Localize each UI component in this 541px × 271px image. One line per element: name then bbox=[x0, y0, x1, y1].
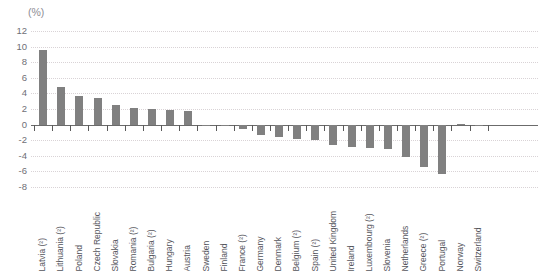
gridline bbox=[31, 93, 538, 94]
bar bbox=[94, 98, 102, 125]
axis-tick-mark bbox=[252, 125, 253, 131]
x-axis-label: Finland bbox=[219, 243, 228, 271]
y-axis-tick-labels: 121086420-2-4-6-8 bbox=[0, 31, 27, 187]
bar bbox=[348, 125, 356, 148]
y-axis-tick-label: -8 bbox=[3, 182, 27, 192]
axis-tick-mark bbox=[125, 125, 126, 131]
x-axis-label: Austria bbox=[183, 245, 192, 271]
x-axis-label: Slovakia bbox=[110, 239, 119, 271]
y-axis-tick-label: 12 bbox=[3, 26, 27, 36]
x-axis-label: France (²) bbox=[237, 234, 246, 271]
axis-tick-mark bbox=[306, 125, 307, 131]
x-axis-label: Netherlands bbox=[401, 225, 410, 271]
axis-tick-mark bbox=[343, 125, 344, 131]
axis-tick-mark bbox=[88, 125, 89, 131]
plot-area bbox=[31, 31, 538, 187]
x-axis-label: Hungary bbox=[165, 239, 174, 271]
gridline bbox=[31, 187, 538, 188]
bar bbox=[148, 109, 156, 125]
y-axis-tick-label: -2 bbox=[3, 135, 27, 145]
axis-tick-mark bbox=[216, 125, 217, 131]
gridline bbox=[31, 156, 538, 157]
x-axis-label: Lithuania (²) bbox=[56, 226, 65, 271]
bar bbox=[57, 87, 65, 124]
y-axis-tick-label: 6 bbox=[3, 73, 27, 83]
bar bbox=[457, 124, 465, 125]
x-axis-label: Greece (²) bbox=[419, 232, 428, 271]
x-axis-category-labels: Latvia (²)Lithuania (²)PolandCzech Repub… bbox=[31, 190, 538, 271]
bar bbox=[420, 125, 428, 167]
y-axis-tick-label: 4 bbox=[3, 89, 27, 99]
x-axis-label: Switzerland bbox=[473, 227, 482, 271]
axis-tick-mark bbox=[415, 125, 416, 131]
axis-tick-mark bbox=[361, 125, 362, 131]
x-axis-label: Latvia (²) bbox=[38, 237, 47, 271]
gridline bbox=[31, 109, 538, 110]
x-axis-label: Belgium (²) bbox=[292, 229, 301, 271]
axis-tick-mark bbox=[488, 125, 489, 131]
axis-tick-mark bbox=[470, 125, 471, 131]
gridline bbox=[31, 140, 538, 141]
axis-tick-mark bbox=[143, 125, 144, 131]
x-axis-label: Czech Republic bbox=[92, 211, 101, 271]
x-axis-label: Poland bbox=[74, 245, 83, 271]
x-axis-label: Norway bbox=[455, 242, 464, 271]
y-axis-tick-label: 2 bbox=[3, 104, 27, 114]
x-axis-label: United Kingdom bbox=[328, 211, 337, 271]
bar bbox=[257, 125, 265, 135]
bar bbox=[112, 105, 120, 125]
bar bbox=[329, 125, 337, 145]
bar bbox=[166, 110, 174, 124]
bar bbox=[475, 125, 483, 126]
x-axis-label: Portugal bbox=[437, 239, 446, 271]
x-axis-label: Romania (²) bbox=[129, 226, 138, 271]
axis-tick-mark bbox=[52, 125, 53, 131]
x-axis-label: Luxembourg (²) bbox=[364, 213, 373, 271]
bar bbox=[384, 125, 392, 149]
y-axis-tick-label: 10 bbox=[3, 42, 27, 52]
x-axis-label: Spain (²) bbox=[310, 238, 319, 271]
axis-tick-mark bbox=[379, 125, 380, 131]
bar bbox=[239, 125, 247, 129]
y-axis-tick-label: -4 bbox=[3, 151, 27, 161]
gridline bbox=[31, 47, 538, 48]
bar bbox=[438, 125, 446, 174]
axis-tick-mark bbox=[197, 125, 198, 131]
bar bbox=[275, 125, 283, 137]
axis-tick-mark bbox=[34, 125, 35, 131]
gridline bbox=[31, 31, 538, 32]
chart-container: (%) 121086420-2-4-6-8 Latvia (²)Lithuani… bbox=[0, 0, 541, 271]
x-axis-label: Bulgaria (²) bbox=[147, 229, 156, 271]
bar bbox=[221, 125, 229, 126]
y-axis-unit-label: (%) bbox=[28, 6, 44, 18]
bar bbox=[75, 96, 83, 124]
axis-tick-mark bbox=[70, 125, 71, 131]
gridline bbox=[31, 171, 538, 172]
y-axis-tick-label: -6 bbox=[3, 167, 27, 177]
axis-tick-mark bbox=[161, 125, 162, 131]
y-axis-tick-label: 8 bbox=[3, 57, 27, 67]
x-axis-label: Ireland bbox=[346, 245, 355, 271]
axis-tick-mark bbox=[397, 125, 398, 131]
bar bbox=[402, 125, 410, 157]
gridline bbox=[31, 62, 538, 63]
axis-tick-mark bbox=[107, 125, 108, 131]
axis-tick-mark bbox=[433, 125, 434, 131]
axis-tick-mark bbox=[451, 125, 452, 131]
axis-tick-mark bbox=[270, 125, 271, 131]
axis-tick-mark bbox=[324, 125, 325, 131]
bar bbox=[39, 50, 47, 125]
axis-tick-mark bbox=[179, 125, 180, 131]
axis-tick-mark bbox=[288, 125, 289, 131]
bar bbox=[202, 125, 210, 126]
gridline bbox=[31, 78, 538, 79]
bar bbox=[366, 125, 374, 148]
bar bbox=[311, 125, 319, 141]
axis-tick-mark bbox=[234, 125, 235, 131]
y-axis-tick-label: 0 bbox=[3, 120, 27, 130]
bar bbox=[130, 108, 138, 124]
chart-title-cropped bbox=[0, 0, 541, 5]
x-axis-label: Denmark bbox=[274, 237, 283, 271]
bar bbox=[184, 111, 192, 125]
x-axis-label: Germany bbox=[256, 236, 265, 271]
